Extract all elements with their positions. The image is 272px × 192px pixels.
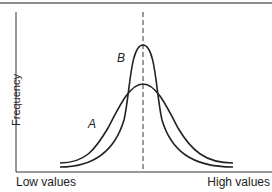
x-axis-low-label: Low values: [16, 175, 76, 189]
chart-canvas: [0, 0, 272, 192]
x-axis-high-label: High values: [207, 175, 270, 189]
curve-a: [60, 84, 233, 163]
y-axis-label: Frequency: [10, 70, 22, 130]
curve-b-label: B: [117, 51, 125, 65]
curve-a-label: A: [88, 117, 96, 131]
curve-b: [60, 45, 233, 167]
